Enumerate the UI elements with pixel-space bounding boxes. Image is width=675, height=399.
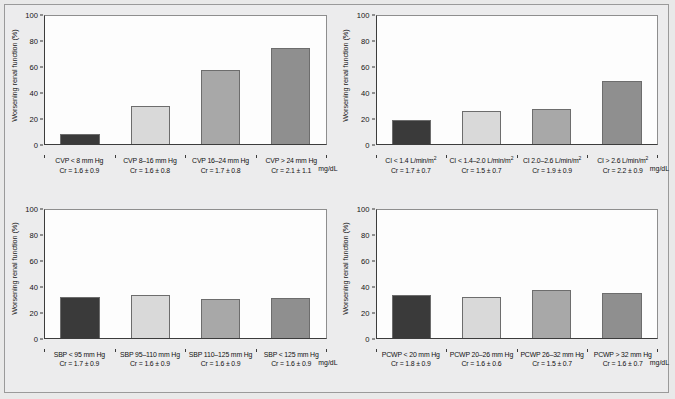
y-tick-label: 20 <box>361 308 374 317</box>
x-axis-label-category: SBP 95–110 mm Hg <box>115 350 186 360</box>
y-tick-label: 20 <box>30 308 43 317</box>
x-axis-label-category: CI 2.0–2.6 L/min/m2 <box>517 156 588 166</box>
x-axis-unit: mg/dL <box>318 359 337 366</box>
panel-grid: Worsening renal function (%) 10080604020… <box>5 5 668 392</box>
plot-area <box>44 15 327 145</box>
x-axis-unit: mg/dL <box>650 359 669 366</box>
y-tick-label: 40 <box>30 89 43 98</box>
x-axis-label-creatinine: Cr = 1.6 ± 0.9 <box>256 359 327 369</box>
y-axis-title-text: Worsening renal function (%) <box>341 222 350 314</box>
x-axis-label: SBP 110–125 mm HgCr = 1.6 ± 0.9 <box>185 350 256 369</box>
chart-panel-ci: Worsening renal function (%) 10080604020… <box>337 5 669 199</box>
bar-cell <box>377 16 447 144</box>
y-tick-label: 0 <box>34 141 43 150</box>
y-axis-ticks: 100806040200 <box>21 15 43 145</box>
bar[interactable] <box>131 106 170 144</box>
y-axis-title-text: Worsening renal function (%) <box>10 29 19 121</box>
plot-wrapper: 100806040200 <box>21 15 327 155</box>
x-axis-label-category: PCWP > 32 mm Hg <box>587 350 658 360</box>
bar[interactable] <box>532 290 571 337</box>
x-axis-label-category: CI < 1.4–2.0 L/min/m2 <box>446 156 517 166</box>
bar[interactable] <box>462 111 501 144</box>
y-axis-title-text: Worsening renal function (%) <box>341 29 350 121</box>
y-axis-title: Worsening renal function (%) <box>7 199 21 339</box>
y-axis-title: Worsening renal function (%) <box>7 5 21 145</box>
x-axis-label-creatinine: Cr = 1.7 ± 0.9 <box>44 359 115 369</box>
figure-frame: Worsening renal function (%) 10080604020… <box>4 4 669 393</box>
x-axis-label-creatinine: Cr = 1.5 ± 0.7 <box>446 166 517 176</box>
bar-cell <box>587 210 657 338</box>
bar[interactable] <box>201 299 240 337</box>
bar-cell <box>447 210 517 338</box>
bar-cell <box>447 16 517 144</box>
x-axis-label-creatinine: Cr = 1.7 ± 0.7 <box>376 166 447 176</box>
x-axis-label-creatinine: Cr = 1.6 ± 0.7 <box>587 359 658 369</box>
x-axis-label: SBP < 125 mm HgCr = 1.6 ± 0.9 <box>256 350 327 369</box>
x-axis-label: CVP > 24 mm HgCr = 2.1 ± 1.1 <box>256 156 327 175</box>
bar-cell <box>517 16 587 144</box>
bar[interactable] <box>462 297 501 338</box>
y-axis-title: Worsening renal function (%) <box>339 199 353 339</box>
plot-wrapper: 100806040200 <box>21 209 327 349</box>
x-axis-label-creatinine: Cr = 1.5 ± 0.7 <box>517 359 588 369</box>
bar-cell <box>115 16 185 144</box>
x-axis-label-category: PCWP < 20 mm Hg <box>376 350 447 360</box>
x-axis-label-creatinine: Cr = 2.1 ± 1.1 <box>256 166 327 176</box>
bar-cell <box>185 210 255 338</box>
y-axis-title-text: Worsening renal function (%) <box>10 222 19 314</box>
x-axis-unit: mg/dL <box>318 165 337 172</box>
x-axis-label-category: CI < 1.4 L/min/m2 <box>376 156 447 166</box>
x-axis-label: CI < 1.4 L/min/m2Cr = 1.7 ± 0.7 <box>376 156 447 175</box>
plot-area <box>376 15 659 145</box>
bar[interactable] <box>131 295 170 337</box>
x-axis-label-creatinine: Cr = 1.6 ± 0.9 <box>44 166 115 176</box>
x-axis-label-category: CVP 8–16 mm Hg <box>115 156 186 166</box>
bar[interactable] <box>60 297 99 338</box>
y-tick-label: 80 <box>30 230 43 239</box>
y-tick-label: 60 <box>361 256 374 265</box>
bar[interactable] <box>392 120 431 144</box>
y-axis-title: Worsening renal function (%) <box>339 5 353 145</box>
x-axis-labels: SBP < 95 mm HgCr = 1.7 ± 0.9SBP 95–110 m… <box>44 350 327 369</box>
bar-series <box>377 16 658 144</box>
bar[interactable] <box>602 293 641 338</box>
x-axis-label-category: CVP 16–24 mm Hg <box>185 156 256 166</box>
bar[interactable] <box>271 298 310 338</box>
bar-cell <box>115 210 185 338</box>
bar-cell <box>185 16 255 144</box>
y-tick-label: 100 <box>357 204 375 213</box>
x-axis-labels: CVP < 8 mm HgCr = 1.6 ± 0.9CVP 8–16 mm H… <box>44 156 327 175</box>
bar-series <box>377 210 658 338</box>
x-axis-label-creatinine: Cr = 1.6 ± 0.9 <box>115 359 186 369</box>
x-axis-label-category: CVP > 24 mm Hg <box>256 156 327 166</box>
bar[interactable] <box>60 134 99 144</box>
plot-area <box>376 209 659 339</box>
bar-cell <box>255 16 325 144</box>
bar[interactable] <box>271 48 310 144</box>
x-axis-label: PCWP < 20 mm HgCr = 1.8 ± 0.9 <box>376 350 447 369</box>
bar-cell <box>45 210 115 338</box>
y-tick-label: 0 <box>34 334 43 343</box>
x-axis-label: CI 2.0–2.6 L/min/m2Cr = 1.9 ± 0.9 <box>517 156 588 175</box>
bar-cell <box>517 210 587 338</box>
bar[interactable] <box>532 109 571 144</box>
x-axis-label-category: SBP < 95 mm Hg <box>44 350 115 360</box>
x-axis-label-creatinine: Cr = 1.6 ± 0.6 <box>446 359 517 369</box>
bar[interactable] <box>392 295 431 337</box>
y-tick-label: 80 <box>361 230 374 239</box>
plot-wrapper: 100806040200 <box>353 15 659 155</box>
y-tick-label: 0 <box>365 141 374 150</box>
y-tick-label: 40 <box>361 89 374 98</box>
y-tick-label: 20 <box>361 115 374 124</box>
bar-cell <box>587 16 657 144</box>
bar[interactable] <box>602 81 641 144</box>
plot-wrapper: 100806040200 <box>353 209 659 349</box>
x-axis-label-creatinine: Cr = 1.6 ± 0.9 <box>185 359 256 369</box>
y-axis-ticks: 100806040200 <box>353 15 375 145</box>
x-axis-label-category: CVP < 8 mm Hg <box>44 156 115 166</box>
x-axis-label-category: SBP < 125 mm Hg <box>256 350 327 360</box>
x-axis-label: CI < 1.4–2.0 L/min/m2Cr = 1.5 ± 0.7 <box>446 156 517 175</box>
x-axis-label: CVP 16–24 mm HgCr = 1.7 ± 0.8 <box>185 156 256 175</box>
x-axis-label-creatinine: Cr = 1.7 ± 0.8 <box>185 166 256 176</box>
bar[interactable] <box>201 70 240 144</box>
